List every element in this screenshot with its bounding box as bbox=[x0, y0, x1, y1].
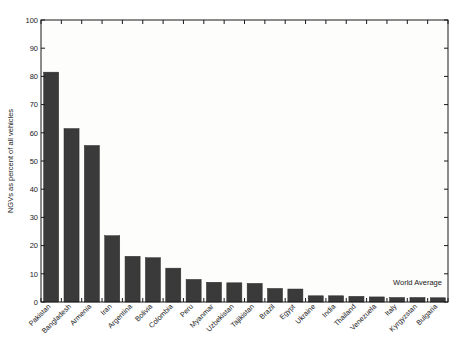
bar-kyrgyzstan bbox=[410, 297, 425, 302]
y-axis-title: NGVs as percent of all vehicles bbox=[6, 109, 15, 213]
x-tick-label: Brazil bbox=[257, 302, 276, 321]
bar-colombia bbox=[166, 268, 181, 302]
x-tick-label-group: Armenia bbox=[68, 302, 93, 327]
bar-myanmar bbox=[206, 282, 221, 302]
plot-frame bbox=[41, 20, 448, 302]
bar-bangladesh bbox=[64, 129, 79, 302]
bar-uzbekistan bbox=[227, 283, 242, 302]
y-tick-label: 50 bbox=[30, 157, 38, 166]
y-axis-title-group: NGVs as percent of all vehicles bbox=[6, 109, 15, 213]
bar-bolivia bbox=[145, 258, 160, 302]
bar-thailand bbox=[349, 296, 364, 302]
y-tick-label: 40 bbox=[30, 185, 38, 194]
x-tick-label: India bbox=[320, 302, 337, 319]
bar-venezuela bbox=[369, 297, 384, 302]
bar-bulgaria bbox=[430, 298, 445, 302]
x-tick-label: Armenia bbox=[68, 302, 93, 327]
y-tick-label: 0 bbox=[34, 298, 38, 307]
ngv-bar-chart: 0102030405060708090100 PakistanBanglades… bbox=[0, 0, 464, 359]
bar-india bbox=[329, 296, 344, 302]
x-tick-label: Bulgaria bbox=[414, 302, 439, 327]
annotation-world-average: World Average bbox=[393, 278, 442, 287]
y-tick-label: 70 bbox=[30, 100, 38, 109]
x-tick-label-group: Brazil bbox=[257, 302, 276, 321]
y-tick-label: 90 bbox=[30, 44, 38, 53]
x-tick-label-group: Iran bbox=[99, 302, 114, 317]
chart-canvas: 0102030405060708090100 PakistanBanglades… bbox=[0, 0, 464, 359]
x-tick-label-group: Bulgaria bbox=[414, 302, 439, 327]
annotations-layer: World Average bbox=[393, 278, 442, 287]
bar-pakistan bbox=[44, 72, 59, 302]
y-tick-label: 20 bbox=[30, 241, 38, 250]
bar-brazil bbox=[268, 288, 283, 302]
axes-layer bbox=[41, 20, 448, 302]
bars-layer bbox=[44, 72, 446, 302]
x-tick-label-group: Italy bbox=[383, 302, 399, 318]
x-tick-label: Italy bbox=[383, 302, 399, 318]
x-tick-label: Peru bbox=[178, 302, 195, 319]
x-tick-label-group: India bbox=[320, 302, 337, 319]
y-tick-label: 60 bbox=[30, 129, 38, 138]
bar-peru bbox=[186, 279, 201, 302]
bar-argentina bbox=[125, 256, 140, 302]
y-axis-title-text: NGVs as percent of all vehicles bbox=[6, 109, 15, 213]
y-tick-label: 100 bbox=[25, 16, 38, 25]
bar-armenia bbox=[84, 145, 99, 302]
x-tick-label-group: Ukraine bbox=[293, 302, 317, 326]
x-tick-label: Ukraine bbox=[293, 302, 317, 326]
bar-ukraine bbox=[308, 296, 323, 302]
bar-iran bbox=[105, 236, 120, 302]
x-tick-label-group: Peru bbox=[178, 302, 195, 319]
bar-tajikistan bbox=[247, 283, 262, 302]
y-tick-label: 80 bbox=[30, 72, 38, 81]
bar-italy bbox=[390, 297, 405, 302]
bar-egypt bbox=[288, 289, 303, 302]
y-tick-label: 30 bbox=[30, 213, 38, 222]
y-tick-label: 10 bbox=[30, 270, 38, 279]
x-tick-label: Iran bbox=[99, 302, 114, 317]
